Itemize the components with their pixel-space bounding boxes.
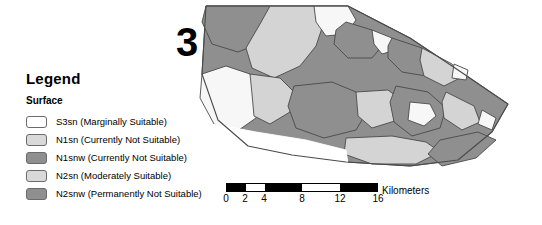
map-figure: 3 Legend Surface S3sn (Marginally Suitab…: [0, 0, 542, 225]
scale-bar-segment: [246, 184, 265, 191]
legend-subtitle: Surface: [26, 95, 226, 107]
legend-item: N2snw (Permanently Not Suitable): [26, 185, 226, 203]
legend-item: N1snw (Currently Not Suitable): [26, 149, 226, 167]
scale-tick-label: 12: [334, 193, 345, 205]
map-number-label: 3: [176, 22, 198, 62]
scale-tick-label: 8: [299, 193, 305, 205]
legend-item: N1sn (Currently Not Suitable): [26, 131, 226, 149]
scale-tick-label: 4: [261, 193, 267, 205]
scale-bar-units-label: Kilometers: [382, 185, 429, 197]
legend-item: N2sn (Moderately Suitable): [26, 167, 226, 185]
legend-item-label: N1sn (Currently Not Suitable): [56, 134, 180, 146]
legend-swatch-icon: [26, 170, 47, 182]
legend-title: Legend: [26, 70, 226, 88]
legend-swatch-icon: [26, 188, 47, 200]
legend-item-label: S3sn (Marginally Suitable): [56, 116, 167, 128]
map-canvas: [196, 0, 542, 180]
legend-swatch-icon: [26, 152, 47, 164]
scale-bar-segment: [265, 184, 303, 191]
legend-swatch-icon: [26, 134, 47, 146]
scale-bar-segment: [340, 184, 378, 191]
legend-item-label: N1snw (Currently Not Suitable): [56, 152, 187, 164]
scale-bar-segment: [227, 184, 246, 191]
scale-tick-label: 0: [223, 193, 229, 205]
legend-panel: Legend Surface S3sn (Marginally Suitable…: [26, 70, 226, 203]
legend-item-label: N2sn (Moderately Suitable): [56, 170, 171, 182]
scale-tick-label: 2: [242, 193, 248, 205]
scale-bar-segment: [302, 184, 340, 191]
scale-bar-graphic: [226, 183, 378, 192]
legend-item: S3sn (Marginally Suitable): [26, 113, 226, 131]
legend-item-label: N2snw (Permanently Not Suitable): [56, 188, 202, 200]
legend-swatch-icon: [26, 116, 47, 128]
scale-bar: 0 2 4 8 12 16: [226, 183, 378, 213]
map-polygons: [196, 0, 542, 180]
